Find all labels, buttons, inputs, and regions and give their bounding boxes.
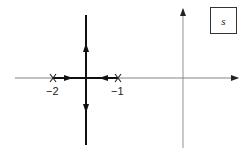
arrow-up-icon (83, 43, 89, 52)
pole-label-minus-1: −1 (111, 85, 124, 97)
arrow-right-icon (64, 75, 73, 81)
s-plane-label: s (210, 7, 237, 34)
pole-label-minus-2: −2 (46, 85, 59, 97)
arrow-down-icon (83, 104, 89, 113)
arrow-left-icon (99, 75, 108, 81)
